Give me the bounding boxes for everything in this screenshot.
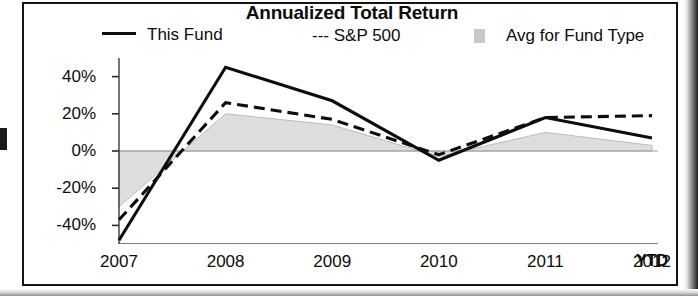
solid-line-swatch-icon <box>102 32 136 35</box>
chart-title: Annualized Total Return <box>24 2 680 24</box>
legend-item-avg-fund-type: Avg for Fund Type <box>474 26 644 46</box>
x-tick-label: 2012 <box>633 252 671 272</box>
y-axis-labels: 40%20%0%-20%-40% <box>48 58 96 244</box>
chart-frame: Annualized Total Return This Fund --- S&… <box>22 2 678 286</box>
legend-label-sp500: --- S&P 500 <box>312 26 401 46</box>
x-tick-label: 2010 <box>420 252 458 272</box>
y-tick-label: 20% <box>62 104 96 124</box>
y-tick-label: -20% <box>56 178 96 198</box>
series-area-avg-fund-type <box>119 114 652 207</box>
x-tick-label: 2009 <box>313 252 351 272</box>
legend-item-sp500: --- S&P 500 <box>312 26 401 46</box>
y-tick-label: 0% <box>71 141 96 161</box>
scan-edge-shadow-right <box>682 0 698 296</box>
series-lines <box>119 67 652 240</box>
chart-legend: This Fund --- S&P 500 Avg for Fund Type <box>24 25 680 51</box>
area-fill-swatch-icon <box>474 29 485 43</box>
scan-edge-shadow-bottom <box>0 289 698 296</box>
x-tick-label: 2007 <box>100 252 138 272</box>
y-tick-label: -40% <box>56 215 96 235</box>
legend-label-avg-fund-type: Avg for Fund Type <box>506 26 644 46</box>
legend-label-this-fund: This Fund <box>147 25 223 45</box>
y-tick-label: 40% <box>62 67 96 87</box>
x-tick-label: 2011 <box>527 252 564 272</box>
legend-item-this-fund: This Fund <box>102 25 223 45</box>
x-tick-label: 2008 <box>207 252 245 272</box>
plot-svg <box>96 58 660 244</box>
x-axis-labels: YTD 200720082009201020112012 <box>24 252 680 276</box>
plot-area <box>96 58 660 244</box>
scan-edge-artifact-left <box>0 128 7 150</box>
